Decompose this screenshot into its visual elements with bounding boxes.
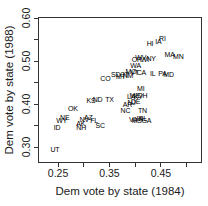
x-axis-tick xyxy=(83,163,84,167)
state-point-SC: SC xyxy=(96,121,105,128)
state-point-UT: UT xyxy=(50,145,59,152)
state-point-OK: OK xyxy=(68,105,78,112)
state-point-GA: GA xyxy=(142,117,152,124)
y-axis-tick xyxy=(34,61,38,62)
y-axis-tick xyxy=(34,82,38,83)
y-axis-tick xyxy=(34,125,38,126)
y-tick-label: 0.30 xyxy=(20,137,32,157)
state-point-IL: IL xyxy=(150,69,155,76)
y-axis-tick xyxy=(34,147,38,148)
state-point-MN: MN xyxy=(173,52,184,59)
state-point-CO: CO xyxy=(100,74,110,81)
state-point-HI: HI xyxy=(147,40,154,47)
state-point-TX: TX xyxy=(105,96,114,103)
state-point-NC: NC xyxy=(121,106,131,113)
y-axis-tick xyxy=(34,104,38,105)
plot-area xyxy=(38,17,202,163)
x-tick-label: 0.35 xyxy=(99,167,119,179)
x-tick-label: 0.25 xyxy=(48,167,68,179)
state-point-NH: NH xyxy=(76,124,86,131)
x-axis-tick xyxy=(135,163,136,167)
state-point-MI: MI xyxy=(137,85,144,92)
state-point-OH: OH xyxy=(137,92,147,99)
state-point-ID: ID xyxy=(54,123,61,130)
x-axis-title: Dem vote by state (1984) xyxy=(55,185,184,197)
state-point-ND: ND xyxy=(93,96,103,103)
y-axis-tick xyxy=(34,39,38,40)
state-point-TN: TN xyxy=(138,107,147,114)
y-tick-label: 0.40 xyxy=(20,94,32,114)
y-axis-title: Dem vote by state (1988) xyxy=(3,25,15,154)
state-point-WA: WA xyxy=(130,62,141,69)
state-point-NY: NY xyxy=(146,54,155,61)
scatterplot-figure: Dem vote by state (1984) Dem vote by sta… xyxy=(0,0,208,206)
state-point-CA: CA xyxy=(137,69,146,76)
y-tick-label: 0.60 xyxy=(20,8,32,28)
state-point-MD: MD xyxy=(163,70,174,77)
state-point-RI: RI xyxy=(159,35,166,42)
x-axis-tick xyxy=(186,163,187,167)
state-point-NE: NE xyxy=(60,114,69,121)
y-tick-label: 0.50 xyxy=(20,51,32,71)
y-axis-tick xyxy=(34,18,38,19)
x-tick-label: 0.45 xyxy=(151,167,171,179)
